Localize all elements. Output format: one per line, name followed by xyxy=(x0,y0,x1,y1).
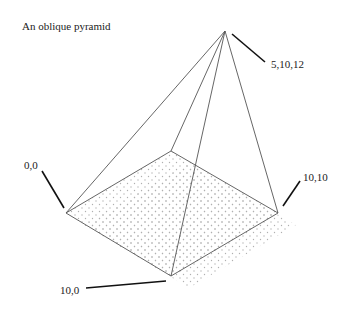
leader-10-0 xyxy=(86,281,166,288)
leader-apex xyxy=(232,34,265,62)
leader-10-10 xyxy=(283,181,300,206)
pyramid-diagram xyxy=(0,0,347,312)
base-dot-fill xyxy=(66,151,296,288)
label-10-0: 10,0 xyxy=(60,284,79,296)
label-0-0: 0,0 xyxy=(24,159,38,171)
leader-0-0 xyxy=(42,171,64,208)
label-10-10: 10,10 xyxy=(303,171,328,183)
label-apex: 5,10,12 xyxy=(271,58,304,70)
